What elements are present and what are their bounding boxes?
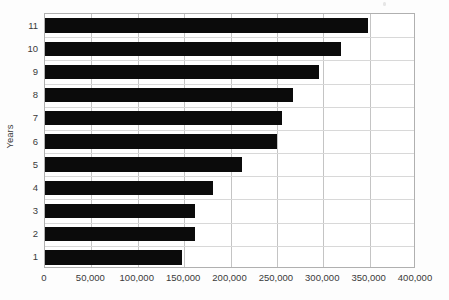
horizontal-gridline	[45, 153, 414, 154]
x-axis-tick-label: 100,000	[120, 272, 154, 283]
y-axis-tick-labels: 1234567891011	[0, 13, 44, 268]
y-axis-tick-label: 10	[27, 42, 38, 53]
horizontal-gridline	[45, 107, 414, 108]
scan-artifact	[383, 2, 386, 6]
x-axis-tick-label: 350,000	[351, 272, 385, 283]
x-axis-tick-label: 300,000	[305, 272, 339, 283]
x-axis-tick-label: 0	[41, 272, 46, 283]
y-axis-tick-label: 4	[33, 181, 38, 192]
horizontal-gridline	[45, 199, 414, 200]
y-axis-tick-label: 3	[33, 205, 38, 216]
y-axis-tick-label: 9	[33, 65, 38, 76]
x-axis-tick-label: 200,000	[212, 272, 246, 283]
x-axis-tick-label: 150,000	[166, 272, 200, 283]
y-axis-tick-label: 5	[33, 158, 38, 169]
bar-chart: Years 1234567891011 050,000100,000150,00…	[0, 0, 449, 300]
horizontal-gridline	[45, 223, 414, 224]
bar	[45, 42, 341, 56]
horizontal-gridline	[45, 37, 414, 38]
vertical-gridline	[370, 14, 371, 267]
y-axis-tick-label: 8	[33, 89, 38, 100]
horizontal-gridline	[45, 246, 414, 247]
x-axis-tick-label: 400,000	[398, 272, 432, 283]
bar	[45, 227, 195, 241]
bar	[45, 250, 182, 264]
y-axis-tick-label: 2	[33, 228, 38, 239]
plot-area	[44, 13, 415, 268]
y-axis-tick-label: 7	[33, 112, 38, 123]
horizontal-gridline	[45, 60, 414, 61]
bar	[45, 88, 293, 102]
bar	[45, 157, 242, 171]
bar	[45, 18, 368, 32]
bar	[45, 111, 282, 125]
bar	[45, 204, 195, 218]
y-axis-tick-label: 11	[28, 19, 38, 30]
y-axis-tick-label: 1	[33, 251, 38, 262]
horizontal-gridline	[45, 176, 414, 177]
y-axis-tick-label: 6	[33, 135, 38, 146]
x-axis-tick-label: 50,000	[76, 272, 105, 283]
bar	[45, 181, 213, 195]
x-axis-tick-label: 250,000	[259, 272, 293, 283]
bar	[45, 134, 277, 148]
horizontal-gridline	[45, 84, 414, 85]
bar	[45, 65, 319, 79]
x-axis-tick-labels: 050,000100,000150,000200,000250,000300,0…	[0, 272, 449, 288]
horizontal-gridline	[45, 130, 414, 131]
